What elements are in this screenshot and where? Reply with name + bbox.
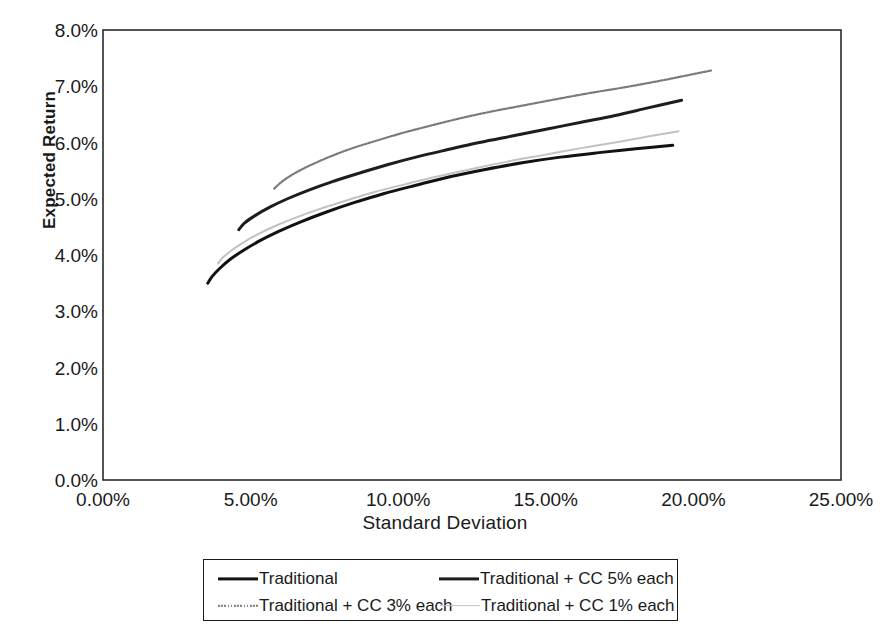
legend-label: Traditional + CC 1% each [480,597,675,614]
legend-line-swatch-icon [439,574,479,584]
legend-line-swatch-icon [440,601,480,611]
efficient-frontier-chart: Expected Return 0.0%1.0%2.0%3.0%4.0%5.0%… [0,0,890,640]
legend-item-cc1[interactable]: Traditional + CC 1% each [436,592,677,619]
legend-label: Traditional + CC 3% each [258,597,453,614]
legend-label: Traditional + CC 5% each [479,570,674,587]
x-axis-title: Standard Deviation [0,512,890,534]
x-axis-tick-label: 10.00% [328,490,468,509]
legend-item-traditional[interactable]: Traditional [204,565,435,592]
legend-item-cc3[interactable]: Traditional + CC 3% each [204,592,436,619]
x-axis-tick-label: 25.00% [771,490,890,509]
legend-row: Traditional Traditional + CC 5% each [204,565,677,592]
legend-label: Traditional [258,570,338,587]
chart-legend: Traditional Traditional + CC 5% each Tra… [203,559,678,621]
x-axis-tick-label: 0.00% [33,490,173,509]
x-axis-tick-label: 15.00% [476,490,616,509]
legend-line-swatch-icon [218,601,258,611]
x-axis-tick-label: 20.00% [623,490,763,509]
x-axis-tick-label: 5.00% [181,490,321,509]
legend-line-swatch-icon [218,574,258,584]
legend-row: Traditional + CC 3% each Traditional + C… [204,592,677,619]
legend-item-cc5[interactable]: Traditional + CC 5% each [435,565,677,592]
x-axis-tick-labels: 0.00%5.00%10.00%15.00%20.00%25.00% [0,0,890,640]
